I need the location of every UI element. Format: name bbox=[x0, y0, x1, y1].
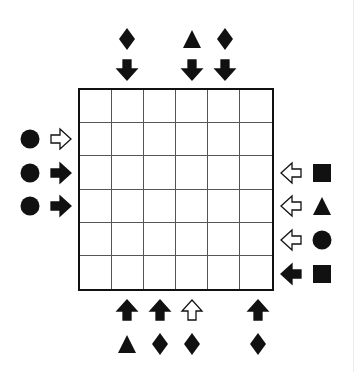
grid-cell-r3-c0[interactable] bbox=[80, 190, 112, 223]
grid-cell-r4-c0[interactable] bbox=[80, 223, 112, 256]
grid-cell-r2-c2[interactable] bbox=[144, 156, 176, 189]
left-clue-arrow-right-filled-icon bbox=[48, 160, 74, 186]
top-clue-arrow-down-filled-icon bbox=[179, 57, 205, 83]
grid-cell-r5-c1[interactable] bbox=[112, 256, 144, 289]
left-clue-circle-icon bbox=[17, 193, 43, 219]
top-clue-diamond-icon bbox=[114, 26, 140, 52]
grid-cell-r5-c0[interactable] bbox=[80, 256, 112, 289]
bottom-clue-arrow-up-filled-icon bbox=[245, 297, 271, 323]
right-clue-arrow-left-hollow-icon bbox=[278, 227, 304, 253]
grid-cell-r3-c1[interactable] bbox=[112, 190, 144, 223]
bottom-clue-diamond-icon bbox=[245, 331, 271, 357]
grid-cell-r1-c1[interactable] bbox=[112, 123, 144, 156]
grid-cell-r2-c1[interactable] bbox=[112, 156, 144, 189]
grid-cell-r3-c3[interactable] bbox=[176, 190, 208, 223]
bottom-clue-diamond-icon bbox=[147, 331, 173, 357]
right-clue-arrow-left-hollow-icon bbox=[278, 193, 304, 219]
right-clue-square-icon bbox=[309, 160, 335, 186]
grid-cell-r0-c5[interactable] bbox=[240, 90, 272, 123]
bottom-clue-triangle-icon bbox=[114, 331, 140, 357]
grid-cell-r5-c2[interactable] bbox=[144, 256, 176, 289]
right-clue-triangle-icon bbox=[309, 193, 335, 219]
grid-cell-r0-c0[interactable] bbox=[80, 90, 112, 123]
bottom-clue-arrow-up-hollow-icon bbox=[179, 297, 205, 323]
puzzle-grid bbox=[78, 88, 274, 291]
grid-cell-r3-c4[interactable] bbox=[208, 190, 240, 223]
left-clue-circle-icon bbox=[17, 126, 43, 152]
grid-cell-r0-c1[interactable] bbox=[112, 90, 144, 123]
grid-cell-r5-c3[interactable] bbox=[176, 256, 208, 289]
right-clue-circle-icon bbox=[309, 227, 335, 253]
grid-cell-r2-c5[interactable] bbox=[240, 156, 272, 189]
top-clue-arrow-down-filled-icon bbox=[212, 57, 238, 83]
grid-cell-r3-c2[interactable] bbox=[144, 190, 176, 223]
right-clue-arrow-left-hollow-icon bbox=[278, 160, 304, 186]
left-clue-circle-icon bbox=[17, 160, 43, 186]
grid-cell-r5-c5[interactable] bbox=[240, 256, 272, 289]
grid-cell-r5-c4[interactable] bbox=[208, 256, 240, 289]
grid-cell-r1-c4[interactable] bbox=[208, 123, 240, 156]
grid-cell-r4-c4[interactable] bbox=[208, 223, 240, 256]
page-edge-line bbox=[353, 0, 354, 372]
top-clue-arrow-down-filled-icon bbox=[114, 57, 140, 83]
grid-cell-r2-c4[interactable] bbox=[208, 156, 240, 189]
grid-cell-r4-c5[interactable] bbox=[240, 223, 272, 256]
grid-cell-r1-c2[interactable] bbox=[144, 123, 176, 156]
grid-cell-r2-c3[interactable] bbox=[176, 156, 208, 189]
grid-cell-r1-c3[interactable] bbox=[176, 123, 208, 156]
right-clue-square-icon bbox=[309, 261, 335, 287]
grid-cell-r0-c4[interactable] bbox=[208, 90, 240, 123]
grid-cell-r4-c2[interactable] bbox=[144, 223, 176, 256]
grid-cell-r2-c0[interactable] bbox=[80, 156, 112, 189]
left-clue-arrow-right-filled-icon bbox=[48, 193, 74, 219]
right-clue-arrow-left-filled-icon bbox=[278, 261, 304, 287]
grid-cell-r1-c0[interactable] bbox=[80, 123, 112, 156]
left-clue-arrow-right-hollow-icon bbox=[48, 126, 74, 152]
grid-cell-r0-c2[interactable] bbox=[144, 90, 176, 123]
grid-cell-r0-c3[interactable] bbox=[176, 90, 208, 123]
bottom-clue-arrow-up-filled-icon bbox=[147, 297, 173, 323]
bottom-clue-arrow-up-filled-icon bbox=[114, 297, 140, 323]
top-clue-triangle-icon bbox=[179, 26, 205, 52]
grid-cell-r1-c5[interactable] bbox=[240, 123, 272, 156]
bottom-clue-diamond-icon bbox=[179, 331, 205, 357]
top-clue-diamond-icon bbox=[212, 26, 238, 52]
grid-cell-r3-c5[interactable] bbox=[240, 190, 272, 223]
grid-cell-r4-c1[interactable] bbox=[112, 223, 144, 256]
grid-cell-r4-c3[interactable] bbox=[176, 223, 208, 256]
